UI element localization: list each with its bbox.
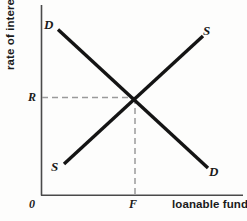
x-axis-tick-label-F: F [129,198,137,210]
demand-curve-label-top: D [44,18,53,31]
loanable-funds-supply-demand-chart: D S S D R 0 F rate of interest % loanabl… [0,0,247,221]
y-axis-tick-label-R: R [28,91,36,103]
supply-curve-label-bottom: S [51,160,58,173]
x-axis-title: loanable funds [172,198,247,210]
origin-label: 0 [29,198,35,210]
y-axis-title: rate of interest % [4,0,16,70]
supply-curve-label-top: S [203,24,210,37]
demand-curve-label-bottom: D [209,165,218,178]
